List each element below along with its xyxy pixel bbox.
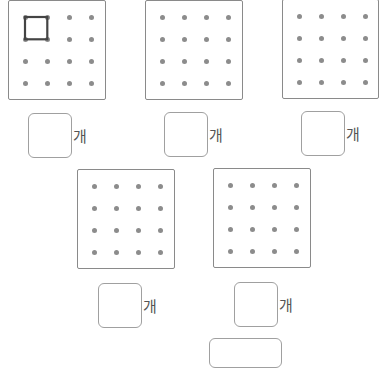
peg-dot: [297, 36, 302, 41]
answer-box-4[interactable]: [98, 283, 142, 328]
peg-dot: [226, 15, 231, 20]
geoboard-5: [213, 168, 311, 268]
peg-dot: [92, 184, 97, 189]
peg-dot: [160, 59, 165, 64]
peg-dot: [228, 227, 233, 232]
shape-layer: [9, 1, 107, 101]
unit-label-3: 개: [346, 123, 360, 144]
unit-label-4: 개: [143, 295, 157, 316]
peg-dot: [114, 250, 119, 255]
peg-dot: [319, 80, 324, 85]
peg-dot: [228, 183, 233, 188]
peg-dot: [341, 36, 346, 41]
peg-dot: [136, 228, 141, 233]
peg-dot: [294, 205, 299, 210]
answer-box-total[interactable]: [209, 338, 282, 368]
geoboard-1: [8, 0, 106, 100]
peg-dot: [228, 205, 233, 210]
peg-dot: [92, 250, 97, 255]
peg-dot: [363, 58, 368, 63]
peg-dot: [363, 14, 368, 19]
drawn-square: [25, 17, 47, 39]
peg-dot: [114, 206, 119, 211]
peg-dot: [341, 80, 346, 85]
peg-dot: [160, 37, 165, 42]
peg-dot: [114, 184, 119, 189]
peg-dot: [160, 15, 165, 20]
peg-dot: [297, 14, 302, 19]
peg-dot: [114, 228, 119, 233]
peg-dot: [319, 36, 324, 41]
peg-dot: [297, 58, 302, 63]
peg-dot: [363, 80, 368, 85]
peg-dot: [204, 81, 209, 86]
peg-dot: [204, 15, 209, 20]
peg-dot: [92, 206, 97, 211]
unit-label-2: 개: [209, 124, 223, 145]
geoboard-4: [77, 169, 175, 269]
peg-dot: [294, 227, 299, 232]
peg-dot: [272, 227, 277, 232]
peg-dot: [182, 37, 187, 42]
peg-dot: [158, 228, 163, 233]
peg-dot: [294, 183, 299, 188]
peg-dot: [272, 205, 277, 210]
unit-label-5: 개: [279, 294, 293, 315]
peg-dot: [319, 58, 324, 63]
peg-dot: [341, 58, 346, 63]
peg-dot: [250, 249, 255, 254]
peg-dot: [228, 249, 233, 254]
answer-box-3[interactable]: [301, 111, 345, 156]
peg-dot: [226, 81, 231, 86]
peg-dot: [160, 81, 165, 86]
peg-dot: [250, 205, 255, 210]
peg-dot: [182, 81, 187, 86]
peg-dot: [272, 183, 277, 188]
peg-dot: [297, 80, 302, 85]
peg-dot: [136, 184, 141, 189]
peg-dot: [158, 206, 163, 211]
peg-dot: [204, 59, 209, 64]
peg-dot: [158, 184, 163, 189]
answer-box-1[interactable]: [28, 113, 72, 158]
geoboard-3: [282, 0, 379, 99]
peg-dot: [226, 59, 231, 64]
peg-dot: [341, 14, 346, 19]
peg-dot: [294, 249, 299, 254]
answer-box-2[interactable]: [164, 112, 208, 157]
geoboard-2: [145, 0, 243, 100]
answer-box-5[interactable]: [234, 282, 278, 327]
peg-dot: [319, 14, 324, 19]
unit-label-1: 개: [73, 125, 87, 146]
peg-dot: [204, 37, 209, 42]
peg-dot: [158, 250, 163, 255]
peg-dot: [272, 249, 277, 254]
peg-dot: [136, 250, 141, 255]
peg-dot: [363, 36, 368, 41]
peg-dot: [226, 37, 231, 42]
peg-dot: [92, 228, 97, 233]
peg-dot: [136, 206, 141, 211]
peg-dot: [250, 227, 255, 232]
peg-dot: [250, 183, 255, 188]
peg-dot: [182, 15, 187, 20]
peg-dot: [182, 59, 187, 64]
